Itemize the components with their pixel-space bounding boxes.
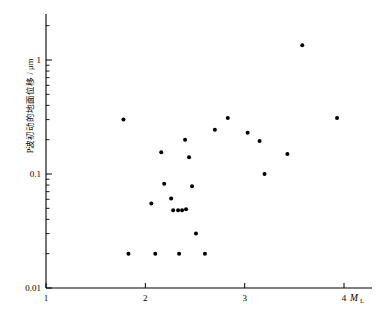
y-tick-label: 1 <box>37 55 42 65</box>
data-point <box>226 116 230 120</box>
data-point <box>263 172 267 176</box>
data-point <box>335 116 339 120</box>
data-point <box>300 43 304 47</box>
x-axis-title: ML <box>349 293 364 304</box>
scatter-chart-figure: 12340.010.11 ML P波初动的地面位移 / μm <box>0 0 380 319</box>
data-point <box>149 202 153 206</box>
data-point <box>258 139 262 143</box>
data-point <box>285 152 289 156</box>
x-tick-label: 2 <box>143 293 148 303</box>
data-point <box>213 128 217 132</box>
data-point <box>187 155 191 159</box>
data-point <box>184 207 188 211</box>
tick-marks <box>46 26 344 288</box>
data-point <box>177 252 181 256</box>
data-points <box>121 43 339 256</box>
data-point <box>126 252 130 256</box>
data-point <box>183 138 187 142</box>
data-point <box>162 182 166 186</box>
x-axis-title-text: M <box>349 293 359 303</box>
x-tick-label: 1 <box>44 293 49 303</box>
plot-canvas: 12340.010.11 ML <box>0 0 380 319</box>
data-point <box>169 196 173 200</box>
data-point <box>246 131 250 135</box>
y-tick-label: 0.01 <box>25 283 41 293</box>
data-point <box>159 150 163 154</box>
x-tick-label: 3 <box>242 293 247 303</box>
data-point <box>176 208 180 212</box>
data-point <box>171 208 175 212</box>
data-point <box>203 252 207 256</box>
x-axis-title-subscript: L <box>360 297 364 304</box>
tick-labels: 12340.010.11 <box>25 55 347 303</box>
data-point <box>121 118 125 122</box>
y-axis-title: P波初动的地面位移 / μm <box>23 21 35 191</box>
data-point <box>153 252 157 256</box>
axes <box>46 14 372 288</box>
x-tick-label: 4 <box>342 293 347 303</box>
data-point <box>180 208 184 212</box>
data-point <box>194 232 198 236</box>
data-point <box>190 184 194 188</box>
